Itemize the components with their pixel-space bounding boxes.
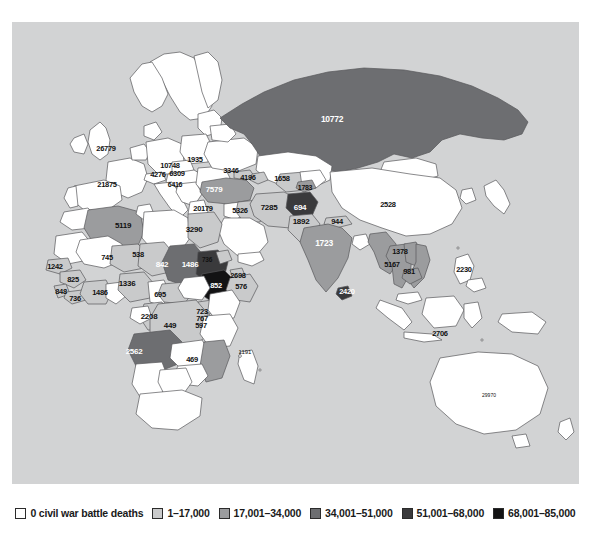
- country-switzerland: [144, 172, 166, 184]
- legend-item-4: 51,001–68,000: [402, 507, 484, 519]
- legend-item-5: 68,001–85,000: [493, 507, 575, 519]
- legend-item-1: 1–17,000: [152, 507, 209, 519]
- country-south-africa: [136, 390, 202, 430]
- country-new-zealand: [558, 418, 574, 440]
- country-papua: [498, 312, 546, 334]
- legend-swatch-2: [219, 508, 230, 519]
- country-sumatra: [376, 300, 412, 330]
- country-india: [300, 224, 352, 292]
- country-philippines-south: [466, 278, 486, 292]
- legend-label-0: 0 civil war battle deaths: [30, 507, 143, 519]
- map-legend: 0 civil war battle deaths1–17,00017,001–…: [0, 498, 591, 528]
- island-dot-3: [457, 247, 459, 249]
- country-bangladesh: [352, 234, 370, 250]
- legend-label-4: 51,001–68,000: [417, 507, 484, 519]
- country-egypt: [188, 212, 222, 248]
- legend-item-3: 34,001–51,000: [310, 507, 392, 519]
- legend-swatch-0: [15, 508, 26, 519]
- island-dot-2: [259, 369, 261, 371]
- legend-item-2: 17,001–34,000: [219, 507, 301, 519]
- country-japan: [484, 180, 510, 214]
- legend-swatch-4: [402, 508, 413, 519]
- country-united-kingdom: [88, 122, 110, 160]
- legend-swatch-5: [493, 508, 504, 519]
- legend-item-0: 0 civil war battle deaths: [15, 507, 143, 519]
- legend-label-5: 68,001–85,000: [508, 507, 575, 519]
- country-china: [330, 168, 462, 236]
- country-australia: [430, 352, 548, 434]
- island-dot-1: [239, 355, 242, 358]
- legend-label-2: 17,001–34,000: [234, 507, 301, 519]
- island-dot-4: [481, 339, 483, 341]
- country-korea: [460, 188, 476, 204]
- country-sri-lanka: [336, 286, 352, 300]
- country-sulawesi: [464, 302, 482, 328]
- figure-root: 2677921875107486309427664161935334641967…: [0, 0, 591, 544]
- country-borneo: [422, 296, 464, 328]
- legend-swatch-3: [310, 508, 321, 519]
- world-map: 2677921875107486309427664161935334641967…: [12, 22, 579, 484]
- legend-swatch-1: [152, 508, 163, 519]
- country-portugal: [64, 186, 78, 208]
- country-malaysia: [396, 292, 422, 304]
- country-turkey: [200, 178, 254, 204]
- country-ireland: [70, 134, 88, 154]
- country-tasmania: [512, 434, 530, 448]
- legend-label-3: 34,001–51,000: [325, 507, 392, 519]
- country-spain: [72, 180, 122, 210]
- country-denmark: [144, 122, 162, 140]
- country-ukraine: [204, 138, 258, 172]
- map-vector-layer: [12, 22, 579, 484]
- country-java: [404, 332, 442, 342]
- legend-label-1: 1–17,000: [167, 507, 209, 519]
- country-yemen: [238, 252, 264, 266]
